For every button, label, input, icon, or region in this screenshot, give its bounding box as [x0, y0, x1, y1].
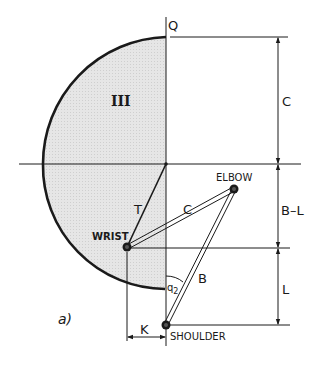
elbow-label: ELBOW — [216, 172, 252, 183]
link-label-C: C — [183, 202, 192, 217]
link-B — [164, 189, 236, 325]
angle-label-q2: q2 — [167, 282, 178, 296]
link-label-B: B — [198, 271, 207, 286]
region-label-III: III — [111, 93, 131, 109]
link-label-T: T — [133, 202, 142, 217]
workspace-region-III — [43, 37, 166, 289]
wrist-label: WRIST — [92, 231, 129, 242]
dimension-label-C: C — [282, 94, 291, 109]
dimension-label-B-L: B–L — [281, 203, 304, 218]
dimension-label-L: L — [282, 282, 290, 297]
wrist-joint-icon — [123, 243, 132, 252]
vertical-dimensions: C B–L L — [278, 38, 304, 324]
panel-label: a) — [58, 311, 72, 327]
dimension-label-K: K — [140, 322, 149, 337]
horizontal-dimension-K: K — [128, 322, 165, 337]
elbow-joint-icon — [230, 185, 239, 194]
robot-arm-workspace-diagram: C B–L L K Q III T C B WRIST ELBOW SHOULD… — [0, 0, 322, 367]
shoulder-joint-icon — [162, 321, 171, 330]
point-label-Q: Q — [168, 18, 178, 33]
shoulder-label: SHOULDER — [170, 331, 226, 342]
